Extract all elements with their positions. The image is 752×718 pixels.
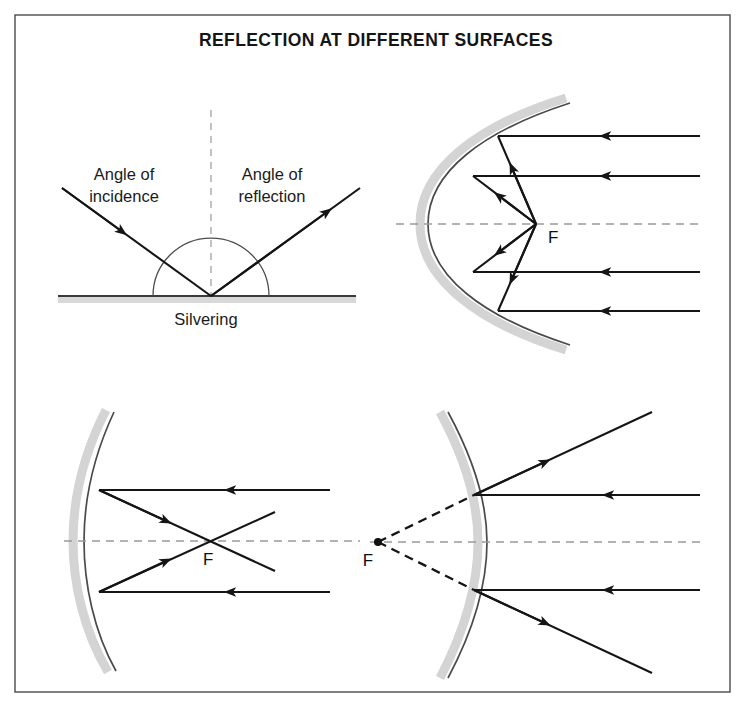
figure-title: REFLECTION AT DIFFERENT SURFACES bbox=[199, 30, 553, 50]
angle-of-incidence-line1: Angle of bbox=[94, 165, 155, 183]
reflection-figure: REFLECTION AT DIFFERENT SURFACES Angle o… bbox=[0, 0, 752, 718]
silvering-band bbox=[58, 297, 356, 303]
focal-point-label-concave-deep: F bbox=[548, 228, 558, 247]
angle-of-reflection-line1: Angle of bbox=[242, 165, 303, 183]
silvering-label: Silvering bbox=[174, 310, 237, 328]
angle-of-incidence-line2: incidence bbox=[89, 187, 159, 205]
focal-point-label-convex: F bbox=[363, 551, 373, 570]
focal-point-label-concave-shallow: F bbox=[203, 550, 213, 569]
reflection-diagram-svg: REFLECTION AT DIFFERENT SURFACES Angle o… bbox=[0, 0, 752, 718]
angle-of-reflection-line2: reflection bbox=[239, 187, 306, 205]
